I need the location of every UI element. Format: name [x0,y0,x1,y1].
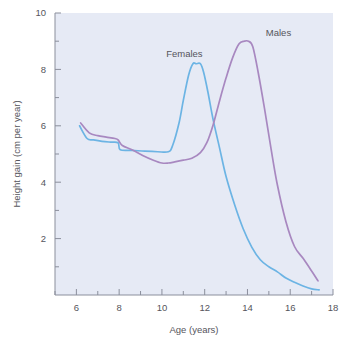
y-tick-label: 8 [41,64,46,75]
x-axis-title: Age (years) [169,324,218,335]
y-tick-label: 6 [41,120,46,131]
x-tick-label: 16 [285,302,296,313]
x-tick-label: 6 [74,302,79,313]
series-label-females: Females [166,48,203,59]
y-tick-label: 2 [41,233,46,244]
x-tick-label: 14 [242,302,253,313]
y-tick-label: 4 [41,177,46,188]
x-tick-label: 10 [157,302,168,313]
chart-svg: 246810 681012141618 FemalesMales Age (ye… [0,0,349,345]
x-tick-label: 12 [199,302,210,313]
x-tick-label: 8 [117,302,122,313]
series-label-males: Males [266,27,292,38]
y-axis-title: Height gain (cm per year) [11,100,22,207]
x-tick-label: 18 [328,302,339,313]
height-velocity-chart: 246810 681012141618 FemalesMales Age (ye… [0,0,349,345]
y-tick-label: 10 [35,7,46,18]
